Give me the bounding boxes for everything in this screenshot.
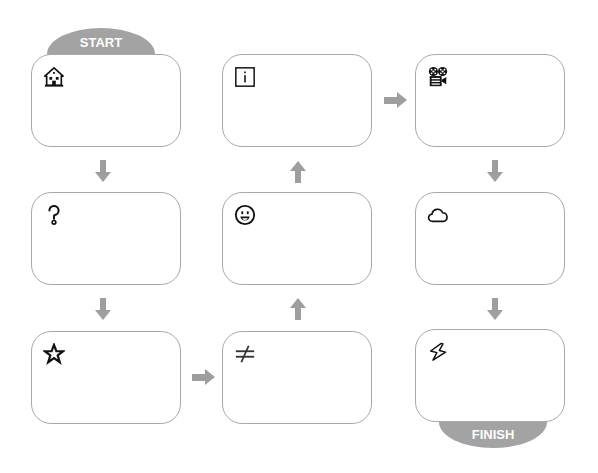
step-box-2 xyxy=(31,192,181,285)
arrow-right-2 xyxy=(384,92,408,108)
arrow-up-2 xyxy=(290,160,306,184)
film-projector-icon xyxy=(427,66,449,88)
arrow-down-4 xyxy=(487,298,503,322)
cloud-icon xyxy=(427,204,449,226)
step-box-3 xyxy=(31,331,181,424)
step-box-5 xyxy=(222,192,372,285)
arrow-down-2 xyxy=(95,298,111,322)
arrow-right-1 xyxy=(192,369,216,385)
arrow-up-1 xyxy=(290,297,306,321)
step-box-4 xyxy=(222,331,372,424)
house-icon xyxy=(43,66,65,88)
question-mark-icon xyxy=(43,204,65,226)
smiley-face-icon xyxy=(234,204,256,226)
finish-label: FINISH xyxy=(439,418,547,448)
arrow-down-1 xyxy=(95,160,111,184)
not-equal-icon xyxy=(234,343,256,365)
info-icon xyxy=(234,66,256,88)
arrow-down-3 xyxy=(487,160,503,184)
step-box-7 xyxy=(415,54,565,147)
step-box-8 xyxy=(415,192,565,285)
step-box-6 xyxy=(222,54,372,147)
step-box-9 xyxy=(415,329,565,422)
star-icon xyxy=(43,343,65,365)
lightning-icon xyxy=(427,341,449,363)
step-box-1 xyxy=(31,54,181,147)
